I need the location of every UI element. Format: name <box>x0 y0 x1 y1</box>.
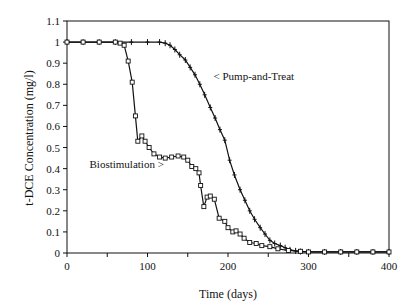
x-tick-label: 200 <box>220 260 237 272</box>
y-tick-label: 0.9 <box>46 57 60 69</box>
y-tick-label: 0.6 <box>46 120 60 132</box>
y-axis: 00.10.20.30.40.50.60.70.80.911.1 <box>46 15 67 259</box>
x-tick-label: 0 <box>64 260 70 272</box>
x-axis-title: Time (days) <box>199 287 257 301</box>
y-tick-label: 0.5 <box>46 142 60 154</box>
line-chart: 00.10.20.30.40.50.60.70.80.911.1 0100200… <box>0 0 411 306</box>
pump-and-treat-annotation: < Pump-and-Treat <box>214 70 295 82</box>
y-tick-label: 0.7 <box>46 99 60 111</box>
x-tick-label: 300 <box>300 260 317 272</box>
y-tick-label: 0 <box>55 247 61 259</box>
y-tick-label: 0.8 <box>46 78 60 90</box>
x-axis: 0100200300400 <box>64 253 398 272</box>
y-tick-label: 0.3 <box>46 184 60 196</box>
x-tick-label: 400 <box>381 260 398 272</box>
y-tick-label: 1.1 <box>46 15 60 27</box>
y-tick-label: 1 <box>55 36 61 48</box>
biostimulation-annotation: Biostimulation > <box>90 158 164 170</box>
x-tick-label: 100 <box>139 260 156 272</box>
y-tick-label: 0.4 <box>46 163 60 175</box>
y-axis-title: t-DCE Concentration (mg/l) <box>22 70 36 205</box>
plot-frame <box>67 21 389 253</box>
y-tick-label: 0.2 <box>46 205 60 217</box>
y-tick-label: 0.1 <box>46 226 60 238</box>
